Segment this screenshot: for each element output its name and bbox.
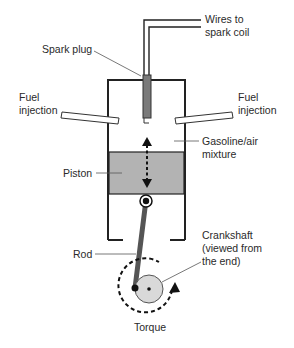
crankshaft-label-line3: the end) [202,255,241,267]
spark-plug-label: Spark plug [42,43,92,55]
rod-label: Rod [73,248,92,260]
fuel-injector-right [175,112,233,124]
piston-label: Piston [63,167,92,179]
fuel-injection-left-line2: injection [19,104,58,116]
spark-plug-electrode [144,118,149,123]
engine-diagram: Wires to spark coil Spark plug Fuel inje… [0,0,294,348]
connecting-rod [135,200,146,288]
fuel-injection-right-line2: injection [238,104,277,116]
wires-label-line1: Wires to [205,13,244,25]
mixture-label-line1: Gasoline/air [202,135,259,147]
torque-label: Torque [134,321,166,333]
crankshaft-leader [162,262,201,282]
crank-pin [132,285,139,292]
fuel-injector-left [61,112,119,124]
mixture-label-line2: mixture [202,148,237,160]
fuel-injection-left-line1: Fuel [19,91,39,103]
wires-label-line2: spark coil [205,26,249,38]
crankshaft-label-line2: (viewed from [202,242,262,254]
wires [144,20,201,75]
torque-arrowhead [169,282,180,293]
crankshaft-center [147,287,151,291]
crankshaft-label-line1: Crankshaft [202,229,253,241]
spark-plug-leader [94,51,141,76]
spark-plug [143,75,151,118]
wrist-pin-center [143,198,149,204]
fuel-injection-right-line1: Fuel [238,91,258,103]
